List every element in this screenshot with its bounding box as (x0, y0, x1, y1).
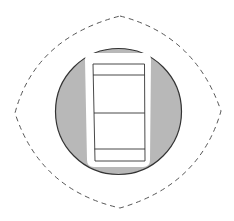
switch-diagram (0, 0, 234, 221)
switch-diagram-svg (0, 0, 234, 221)
rocker-switch[interactable] (93, 64, 145, 161)
